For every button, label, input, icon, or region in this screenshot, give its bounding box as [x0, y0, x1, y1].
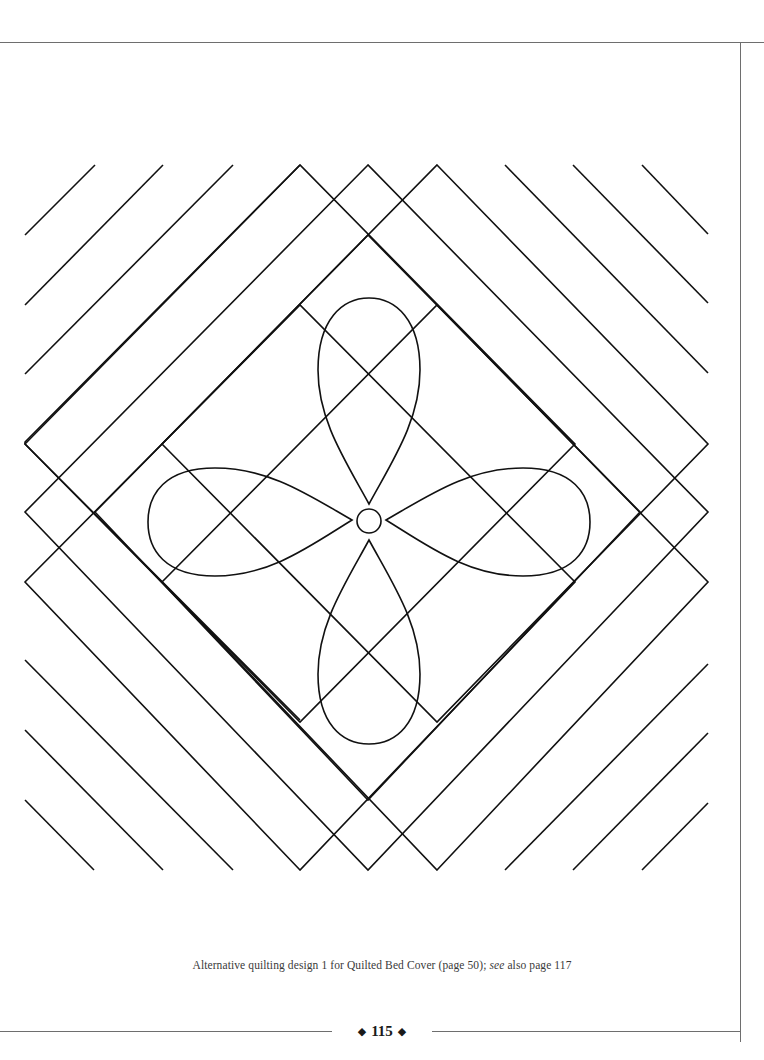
caption-prefix: Alternative quilting design 1 for Quilte…: [192, 959, 489, 971]
diamond-lower-3: [162, 305, 708, 870]
folio-rule-left: [0, 1031, 332, 1032]
center-circle: [357, 509, 381, 533]
quilting-design-illustration: [0, 0, 764, 1060]
upper-left-diagonal-lines: [25, 165, 233, 374]
petal-left: [148, 468, 352, 576]
lower-right-diagonal-lines: [505, 664, 708, 870]
diamond-ornament-icon: ◆: [398, 1020, 406, 1042]
page: Alternative quilting design 1 for Quilte…: [0, 0, 764, 1060]
upper-right-diagonal-lines: [505, 165, 708, 373]
diamond-lower-1: [25, 305, 575, 870]
page-folio: ◆115◆: [0, 1020, 764, 1044]
figure-caption: Alternative quilting design 1 for Quilte…: [0, 959, 764, 971]
folio-rule-right: [432, 1031, 740, 1032]
diamond-ornament-icon: ◆: [358, 1020, 366, 1042]
diamond-inner: [95, 235, 640, 800]
page-number: 115: [371, 1023, 393, 1039]
four-petal-flower: [148, 298, 590, 744]
petal-bottom: [318, 540, 420, 744]
folio-center: ◆115◆: [332, 1020, 432, 1042]
caption-suffix: also page 117: [504, 959, 571, 971]
caption-italic: see: [489, 959, 504, 971]
petal-top: [318, 298, 420, 504]
diamond-outer-3: [162, 165, 708, 722]
petal-right: [386, 468, 590, 576]
